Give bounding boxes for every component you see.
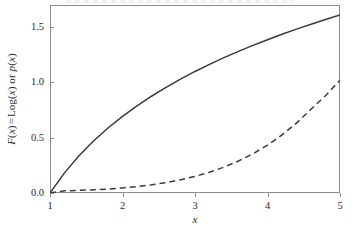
- y-label-paren2-close: ): [5, 87, 17, 91]
- x-tick-label: 3: [192, 201, 197, 212]
- cropped-caption-artifact: [66, 0, 294, 3]
- series-log-curve: [50, 15, 340, 193]
- y-tick-label: 0.5: [18, 132, 44, 143]
- y-tick-mark: [50, 138, 54, 139]
- y-label-equals: =: [5, 117, 17, 125]
- y-label-paren3-open: (: [5, 62, 17, 66]
- y-label-paren1-close: ): [5, 125, 17, 129]
- y-label-paren1-open: (: [5, 134, 17, 138]
- series-p-curve: [50, 80, 340, 193]
- y-label-var1: x: [5, 129, 17, 134]
- y-label-paren2-open: (: [5, 95, 17, 99]
- y-tick-label: 1.0: [18, 77, 44, 88]
- x-tick-label: 1: [47, 201, 52, 212]
- y-tick-mark: [50, 82, 54, 83]
- x-tick-mark: [195, 193, 196, 197]
- y-label-var2: x: [5, 90, 17, 95]
- x-tick-mark: [268, 193, 269, 197]
- x-tick-mark: [123, 193, 124, 197]
- y-tick-mark: [50, 193, 54, 194]
- x-tick-label: 5: [337, 201, 342, 212]
- figure-container: 12345 0.00.51.01.5 x F(x)=Log(x) or p(x): [0, 0, 356, 232]
- y-tick-label: 0.0: [18, 188, 44, 199]
- y-label-var3: x: [5, 57, 17, 62]
- y-label-p: p: [5, 66, 17, 72]
- y-label-or: or: [5, 74, 17, 83]
- y-label-paren3-close: ): [5, 53, 17, 57]
- x-tick-label: 2: [120, 201, 125, 212]
- y-label-F: F: [5, 138, 17, 145]
- y-label-log: Log: [5, 99, 17, 117]
- y-tick-mark: [50, 27, 54, 28]
- plot-canvas: [50, 5, 340, 193]
- y-tick-label: 1.5: [18, 22, 44, 33]
- x-tick-label: 4: [265, 201, 270, 212]
- curves-svg: [50, 5, 340, 193]
- x-tick-mark: [340, 193, 341, 197]
- x-axis-label: x: [193, 214, 198, 225]
